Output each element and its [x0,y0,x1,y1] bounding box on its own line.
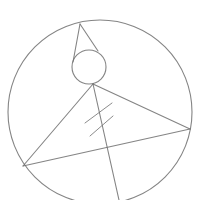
tangent-line-right [80,24,98,51]
circumscribed-circle [8,20,192,200]
geometry-diagram [0,0,204,200]
triangle-side-left [23,84,93,166]
diagram-svg [0,0,204,200]
median-line [93,84,119,200]
equality-tick-marks [85,103,113,136]
triangle-base-chord [23,129,190,166]
tick-mark-2 [90,116,113,136]
small-circle [72,50,106,84]
